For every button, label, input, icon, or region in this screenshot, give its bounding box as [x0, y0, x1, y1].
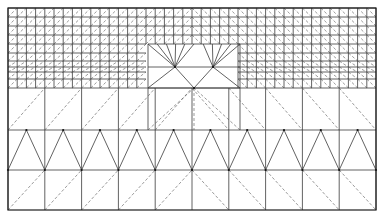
- triangular-mesh-diagram: [0, 0, 385, 220]
